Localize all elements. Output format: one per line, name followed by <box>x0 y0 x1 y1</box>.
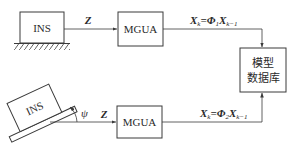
top-z-label: Z <box>84 14 92 26</box>
database-label-line1: 模型 <box>252 56 274 70</box>
bottom-formula: Xk=Φ2Xk−1 <box>199 107 248 121</box>
psi-label: ψ <box>81 107 88 119</box>
bottom-z-label: Z <box>100 108 108 120</box>
top-output-arrow <box>163 29 262 47</box>
ins-mgua-diagram: INS Z MGUA Xk=Φ1Xk−1 模型 数据库 INS ψ Z MGUA… <box>0 0 296 152</box>
model-database-block: 模型 数据库 <box>240 48 286 92</box>
top-ins-label: INS <box>33 22 51 34</box>
bottom-ins-tilted: INS <box>0 78 77 142</box>
top-mgua-block: MGUA <box>118 12 163 46</box>
ground-icon <box>14 44 70 51</box>
top-mgua-label: MGUA <box>124 23 158 35</box>
database-label-line2: 数据库 <box>247 71 280 85</box>
bottom-mgua-label: MGUA <box>123 116 157 128</box>
bottom-mgua-block: MGUA <box>117 106 162 138</box>
top-formula: Xk=Φ1Xk−1 <box>189 14 238 28</box>
model-database-box <box>240 48 286 92</box>
top-ins-block: INS <box>20 12 64 43</box>
